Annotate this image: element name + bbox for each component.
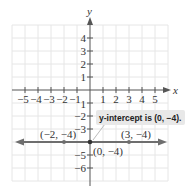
point-label-neg2-neg4: (−2, −4): [40, 128, 77, 141]
x-tick-label: −4: [30, 93, 42, 105]
line-left-arrow-icon: [15, 139, 24, 146]
x-tick-label: 5: [152, 93, 158, 105]
point-label-3-neg4: (3, −4): [121, 128, 151, 141]
x-axis-arrow-icon: [163, 87, 171, 93]
y-tick-label: 3: [81, 45, 87, 57]
x-tick-label: −5: [17, 93, 29, 105]
x-tick-label: 1: [100, 93, 106, 105]
callout-text: y-intercept is (0, −4).: [99, 113, 181, 123]
x-axis-label: x: [172, 84, 178, 96]
y-tick-label: −2: [74, 110, 86, 122]
x-tick-label: −1: [69, 93, 81, 105]
y-tick-label: 1: [81, 71, 87, 83]
line-right-arrow-icon: [158, 139, 167, 146]
x-tick-label: 4: [139, 93, 145, 105]
y-tick-label: 1: [81, 98, 87, 110]
point-0-neg4: [88, 140, 93, 145]
x-tick-label: −2: [56, 93, 68, 105]
y-tick-label: 2: [81, 58, 87, 70]
coordinate-plane: x y −5 −4 −3 −2 −1 1 2 3 4 5 4 3 2 1 1 −…: [0, 0, 190, 190]
x-tick-label: 3: [126, 93, 132, 105]
x-tick-label: −3: [43, 93, 55, 105]
y-axis-arrow-icon: [87, 17, 93, 25]
point-neg2-neg4: [62, 140, 66, 144]
y-tick-label: −6: [74, 162, 86, 174]
y-tick-label: 4: [81, 32, 87, 44]
point-3-neg4: [127, 140, 131, 144]
point-label-0-neg4: (0, −4): [93, 145, 123, 158]
y-axis: [87, 17, 93, 186]
x-tick-label: 2: [113, 93, 119, 105]
y-tick-label: −5: [74, 149, 86, 161]
y-axis-label: y: [86, 5, 92, 17]
